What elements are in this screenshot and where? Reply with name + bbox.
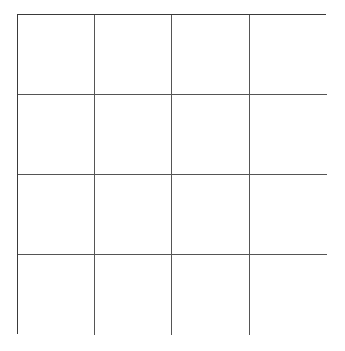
grid-cell-r1-c1[interactable] bbox=[18, 15, 95, 95]
grid-cell-r3-c2[interactable] bbox=[95, 175, 172, 255]
grid-cell-r3-c4[interactable] bbox=[250, 175, 327, 255]
grid-cell-r4-c4[interactable] bbox=[250, 255, 327, 335]
grid-cell-r2-c2[interactable] bbox=[95, 95, 172, 175]
grid-cell-r1-c3[interactable] bbox=[172, 15, 250, 95]
grid-cell-r3-c1[interactable] bbox=[18, 175, 95, 255]
grid-4x4 bbox=[17, 14, 326, 334]
grid-cell-r2-c1[interactable] bbox=[18, 95, 95, 175]
grid-cell-r1-c4[interactable] bbox=[250, 15, 327, 95]
grid-cell-r4-c2[interactable] bbox=[95, 255, 172, 335]
grid-cell-r1-c2[interactable] bbox=[95, 15, 172, 95]
grid-cell-r4-c3[interactable] bbox=[172, 255, 250, 335]
grid-cell-r4-c1[interactable] bbox=[18, 255, 95, 335]
grid-cell-r2-c4[interactable] bbox=[250, 95, 327, 175]
grid-cell-r2-c3[interactable] bbox=[172, 95, 250, 175]
grid-cell-r3-c3[interactable] bbox=[172, 175, 250, 255]
